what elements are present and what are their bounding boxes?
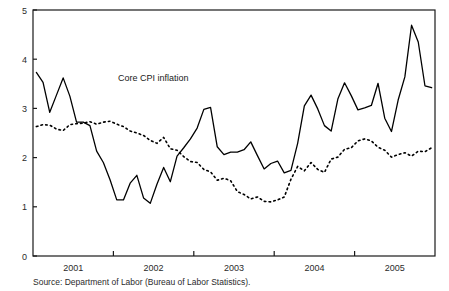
y-tick-label: 5 [22, 6, 27, 16]
x-tick-label: 2002 [144, 263, 164, 273]
overall-cpi-line [36, 25, 431, 203]
core-cpi-line [36, 121, 431, 202]
y-tick-label: 1 [22, 202, 27, 212]
cpi-inflation-chart: 01234520012002200320042005 Core CPI infl… [0, 0, 449, 291]
source-note: Source: Department of Labor (Bureau of L… [33, 277, 250, 287]
axes-layer: 01234520012002200320042005 [22, 6, 435, 274]
core-cpi-annotation-label: Core CPI inflation [118, 73, 189, 83]
x-tick-label: 2005 [385, 263, 405, 273]
y-tick-label: 2 [22, 153, 27, 163]
y-tick-label: 4 [22, 55, 27, 65]
x-tick-label: 2001 [63, 263, 83, 273]
annotation-layer: Core CPI inflation [118, 73, 189, 83]
series-layer [36, 25, 431, 203]
y-tick-label: 3 [22, 104, 27, 114]
y-tick-label: 0 [22, 252, 27, 262]
chart-canvas: 01234520012002200320042005 Core CPI infl… [0, 0, 449, 291]
x-tick-label: 2003 [224, 263, 244, 273]
x-tick-label: 2004 [304, 263, 324, 273]
